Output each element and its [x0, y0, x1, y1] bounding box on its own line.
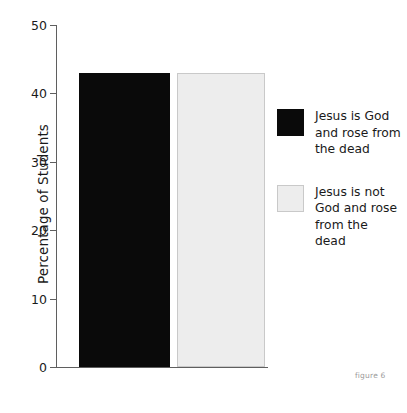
y-tick-label: 30	[31, 154, 47, 169]
y-axis-line	[56, 25, 57, 368]
y-tick-label: 0	[39, 360, 47, 375]
x-axis-line	[56, 367, 268, 368]
legend: Jesus is God and rose from the deadJesus…	[277, 108, 402, 276]
figure-caption: figure 6	[355, 371, 386, 380]
bar-0	[79, 73, 170, 367]
bar-1	[177, 73, 265, 367]
y-tick-mark	[50, 162, 56, 163]
y-tick-mark	[50, 367, 56, 368]
bar-chart-figure: Percentage of Students 50403020100 Jesus…	[0, 0, 407, 413]
y-tick-label: 10	[31, 291, 47, 306]
legend-label: Jesus is God and rose from the dead	[315, 108, 402, 158]
y-tick-label: 20	[31, 223, 47, 238]
legend-swatch-icon	[277, 109, 304, 136]
legend-entry: Jesus is God and rose from the dead	[277, 108, 402, 158]
y-tick-mark	[50, 25, 56, 26]
y-tick-label: 50	[31, 18, 47, 33]
y-axis-title: Percentage of Students	[35, 84, 51, 324]
y-tick-mark	[50, 230, 56, 231]
legend-label: Jesus is not God and rose from the dead	[315, 184, 402, 250]
legend-entry: Jesus is not God and rose from the dead	[277, 184, 402, 250]
y-tick-mark	[50, 93, 56, 94]
y-tick-mark	[50, 299, 56, 300]
y-tick-label: 40	[31, 86, 47, 101]
legend-swatch-icon	[277, 185, 304, 212]
plot-area: 50403020100	[56, 25, 268, 368]
